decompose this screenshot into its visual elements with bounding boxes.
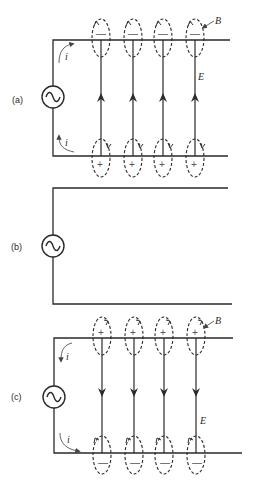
top-conductor-c bbox=[54, 338, 233, 386]
magnetic-loops-bottom-a: + + + + bbox=[92, 139, 205, 177]
svg-text:+: + bbox=[159, 159, 165, 170]
magnetic-label-c: B bbox=[215, 315, 221, 326]
panel-label-a: (a) bbox=[12, 95, 23, 105]
svg-text:—: — bbox=[130, 457, 140, 468]
current-label-bottom-c: i bbox=[67, 434, 70, 445]
electric-field-lines-a bbox=[97, 40, 199, 156]
svg-text:+: + bbox=[130, 327, 136, 338]
panel-label-c: (c) bbox=[11, 392, 22, 402]
magnetic-loops-top-a: — — — — bbox=[92, 19, 204, 57]
svg-text:—: — bbox=[98, 457, 108, 468]
ac-source-icon bbox=[42, 86, 64, 108]
svg-text:—: — bbox=[96, 28, 106, 39]
panel-c: (c) i i bbox=[11, 315, 242, 474]
panel-label-b: (b) bbox=[11, 242, 22, 252]
field-label-a: E bbox=[197, 71, 204, 82]
bottom-conductor-b bbox=[53, 257, 232, 304]
electric-field-lines-c bbox=[98, 338, 200, 453]
current-label-top-a: i bbox=[65, 51, 68, 62]
svg-text:+: + bbox=[129, 159, 135, 170]
svg-text:—: — bbox=[128, 28, 138, 39]
panel-a: (a) i i bbox=[12, 15, 230, 177]
svg-text:—: — bbox=[158, 28, 168, 39]
pointer-arrow-icon bbox=[205, 321, 214, 327]
svg-text:—: — bbox=[160, 457, 170, 468]
svg-text:+: + bbox=[160, 327, 166, 338]
pointer-arrow-icon bbox=[204, 21, 214, 27]
bottom-conductor-c bbox=[54, 408, 242, 453]
magnetic-loops-top-c: + + + + bbox=[93, 317, 205, 355]
svg-text:+: + bbox=[191, 159, 197, 170]
svg-text:+: + bbox=[98, 327, 104, 338]
ac-source-icon bbox=[43, 386, 65, 408]
current-label-bottom-a: i bbox=[65, 137, 68, 148]
ac-source-icon bbox=[42, 235, 64, 257]
svg-text:+: + bbox=[97, 159, 103, 170]
current-label-top-c: i bbox=[66, 351, 69, 362]
svg-text:—: — bbox=[192, 457, 202, 468]
svg-text:—: — bbox=[190, 28, 200, 39]
magnetic-loops-bottom-c: — — — — bbox=[93, 436, 205, 474]
transmission-line-diagram: (a) i i bbox=[0, 0, 267, 480]
panel-b: (b) bbox=[11, 188, 232, 304]
svg-text:+: + bbox=[192, 327, 198, 338]
top-conductor-b bbox=[53, 188, 228, 235]
magnetic-label-a: B bbox=[215, 15, 221, 26]
field-label-c: E bbox=[199, 415, 206, 426]
